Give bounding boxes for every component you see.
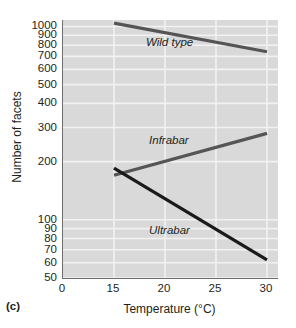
plot-area xyxy=(62,20,278,279)
x-tick-label: 0 xyxy=(42,283,82,295)
y-tick-label: 300 xyxy=(21,122,57,134)
y-tick-label: 400 xyxy=(21,97,57,109)
x-tick-label: 20 xyxy=(144,283,184,295)
y-tick-label: 800 xyxy=(21,39,57,51)
x-axis-title: Temperature (°C) xyxy=(62,302,277,316)
y-tick-label: 700 xyxy=(21,50,57,62)
series-label-wild-type: Wild type xyxy=(146,37,193,49)
y-axis-title: Number of facets xyxy=(10,62,24,212)
y-tick-label: 200 xyxy=(21,156,57,168)
y-tick-label: 60 xyxy=(21,257,57,269)
series-line-ultrabar xyxy=(114,168,267,260)
series-label-ultrabar: Ultrabar xyxy=(149,225,190,237)
plot-svg xyxy=(63,20,278,278)
x-tick-label: 25 xyxy=(195,283,235,295)
series-label-infrabar: Infrabar xyxy=(149,135,189,147)
x-tick-label: 30 xyxy=(246,283,286,295)
y-tick-label: 80 xyxy=(21,233,57,245)
y-tick-label: 50 xyxy=(21,272,57,284)
y-tick-label: 500 xyxy=(21,79,57,91)
y-tick-label: 70 xyxy=(21,244,57,256)
y-tick-label: 600 xyxy=(21,63,57,75)
series-line-infrabar xyxy=(114,133,267,175)
facet-number-vs-temperature-figure: 5060708090100200300400500600700800900100… xyxy=(0,0,296,328)
y-tick-label: 1000 xyxy=(21,20,57,32)
y-tick-label: 100 xyxy=(21,214,57,226)
panel-letter: (c) xyxy=(6,300,20,312)
x-tick-label: 15 xyxy=(93,283,133,295)
